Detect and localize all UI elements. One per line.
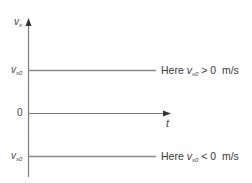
t-axis-label: t [166,118,169,128]
vx-axis-label: vx [14,17,22,30]
annotation-suffix: < 0 m/s [198,150,239,162]
annotation-positive: Here vx0 > 0 m/s [161,65,239,80]
vx-axis-arrow-icon [26,18,32,26]
annotation-suffix: > 0 m/s [198,64,239,76]
vx-axis-label-sub: x [19,22,22,28]
annotation-prefix: Here [161,64,187,76]
tick-zero-text: 0 [17,107,23,118]
tick-sub: x0 [16,70,22,76]
tick-label-vx0-top: vx0 [11,65,22,78]
annotation-prefix: Here [161,150,187,162]
tick-sub: x0 [16,156,22,162]
t-axis-arrow-icon [163,111,171,117]
tick-label-zero: 0 [17,108,23,118]
t-axis-label-text: t [166,117,169,129]
tick-label-vx0-bottom: vx0 [11,151,22,164]
annotation-negative: Here vx0 < 0 m/s [161,151,239,166]
